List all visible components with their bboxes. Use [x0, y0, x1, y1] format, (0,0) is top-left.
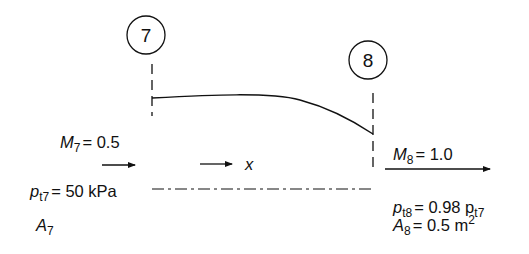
inlet-pressure-symbol: p — [29, 182, 39, 200]
inlet-mach-sub: 7 — [74, 141, 81, 155]
station-8-marker: 8 — [349, 41, 387, 172]
inlet-mach-label: M7= 0.5 — [60, 133, 120, 155]
inlet-area-symbol: A — [35, 216, 47, 234]
inlet-pressure-sub: t7 — [39, 190, 49, 204]
inlet-area-label: A7 — [35, 216, 54, 238]
outlet-area-exponent: 2 — [468, 213, 475, 227]
inlet-pressure-label: pt7= 50 kPa — [29, 182, 118, 204]
outlet-mach-label: M8= 1.0 — [393, 145, 453, 167]
outlet-area-sub: 8 — [404, 224, 411, 238]
outlet-area-symbol: A — [392, 216, 404, 234]
outlet-mach-sub: 8 — [407, 153, 414, 167]
nozzle-wall-contour — [152, 95, 373, 134]
outlet-mach-value: = 1.0 — [415, 145, 452, 163]
inlet-mach-symbol: M — [60, 133, 74, 151]
outlet-pressure-value: = 0.98 p — [414, 198, 474, 216]
outlet-pressure-ref-sub: t7 — [474, 206, 484, 220]
inlet-pressure-value: = 50 kPa — [51, 182, 117, 200]
station-8-label: 8 — [363, 50, 374, 71]
x-axis-label: x — [244, 155, 254, 173]
inlet-mach-value: = 0.5 — [82, 133, 119, 151]
outlet-pressure-symbol: p — [392, 198, 402, 216]
station-7-label: 7 — [141, 25, 152, 46]
station-7-marker: 7 — [127, 16, 165, 116]
nozzle-diagram: 7 8 x M7= 0.5 pt7= 50 kPa A7 M8= 1.0 pt8… — [0, 0, 529, 254]
inlet-area-sub: 7 — [47, 224, 54, 238]
outlet-mach-symbol: M — [393, 145, 407, 163]
outlet-area-value: = 0.5 m — [413, 216, 469, 234]
